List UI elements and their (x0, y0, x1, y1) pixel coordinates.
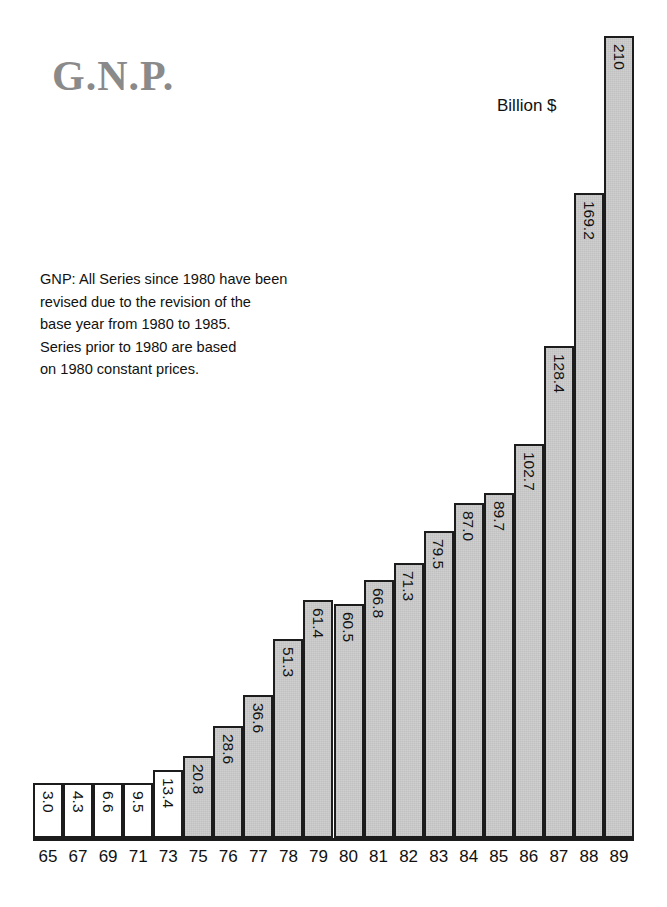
x-axis-tick-label: 77 (243, 845, 273, 869)
bar-value-container: 102.7 (516, 446, 542, 836)
bar-value-container: 13.4 (155, 772, 181, 836)
bar[interactable]: 9.5 (123, 783, 153, 838)
x-axis-tick-label: 89 (604, 845, 634, 869)
bar-value-label: 51.3 (281, 647, 297, 677)
bar-value-container: 51.3 (275, 641, 301, 836)
x-axis-tick-label: 84 (454, 845, 484, 869)
bar-value-container: 210 (606, 38, 632, 836)
x-axis-tick-label: 87 (544, 845, 574, 869)
bar-value-container: 20.8 (185, 758, 211, 836)
x-axis-tick-label: 81 (364, 845, 394, 869)
bar[interactable]: 79.5 (424, 531, 454, 838)
bar-column[interactable]: 51.3 (273, 639, 303, 838)
x-axis-tick-label: 67 (63, 845, 93, 869)
bar-value-container: 60.5 (336, 606, 362, 836)
bar-value-container: 28.6 (215, 728, 241, 836)
bar-column[interactable]: 61.4 (303, 600, 333, 838)
x-axis-tick-label: 73 (153, 845, 183, 869)
bar[interactable]: 4.3 (63, 783, 93, 838)
bar-value-label: 20.8 (191, 764, 207, 794)
bar-value-container: 71.3 (396, 565, 422, 836)
x-axis-labels: 6567697173757677787980818283848586878889 (33, 845, 634, 875)
x-axis-tick-label: 65 (33, 845, 63, 869)
bar-value-container: 128.4 (546, 348, 572, 836)
bar-value-label: 102.7 (521, 452, 537, 491)
bar-column[interactable]: 60.5 (334, 604, 364, 838)
bar-column[interactable]: 6.6 (93, 783, 123, 838)
bar[interactable]: 20.8 (183, 756, 213, 838)
bar-column[interactable]: 71.3 (394, 563, 424, 838)
bar-column[interactable]: 9.5 (123, 783, 153, 838)
bar-value-container: 6.6 (95, 785, 121, 836)
bar[interactable]: 102.7 (514, 444, 544, 838)
bar-value-container: 87.0 (456, 505, 482, 836)
x-axis-tick-label: 75 (183, 845, 213, 869)
bar[interactable]: 36.6 (243, 695, 273, 838)
bar-column[interactable]: 79.5 (424, 531, 454, 838)
bar-column[interactable]: 4.3 (63, 783, 93, 838)
bar-value-container: 61.4 (305, 602, 331, 836)
bar-column[interactable]: 3.0 (33, 783, 63, 838)
bar-column[interactable]: 169.2 (574, 193, 604, 838)
bar-column[interactable]: 36.6 (243, 695, 273, 838)
bar-value-label: 128.4 (551, 354, 567, 393)
bar-value-label: 6.6 (100, 791, 116, 813)
bar-column[interactable]: 20.8 (183, 756, 213, 838)
bar-value-container: 169.2 (576, 195, 602, 836)
bar[interactable]: 89.7 (484, 493, 514, 838)
bar-column[interactable]: 13.4 (153, 770, 183, 838)
bar-value-label: 9.5 (130, 791, 146, 813)
bar-value-label: 66.8 (371, 588, 387, 618)
bar-column[interactable]: 210 (604, 36, 634, 838)
bar-value-container: 66.8 (366, 582, 392, 836)
x-axis-tick-label: 76 (213, 845, 243, 869)
bar-value-container: 3.0 (35, 785, 61, 836)
bar[interactable]: 61.4 (303, 600, 333, 838)
bar[interactable]: 210 (604, 36, 634, 838)
bar-value-label: 36.6 (251, 703, 267, 733)
bar-value-label: 87.0 (461, 511, 477, 541)
bar-value-label: 28.6 (221, 734, 237, 764)
bar-column[interactable]: 28.6 (213, 726, 243, 838)
bar-value-label: 79.5 (431, 539, 447, 569)
bar[interactable]: 60.5 (334, 604, 364, 838)
bar[interactable]: 87.0 (454, 503, 484, 838)
bar-value-container: 4.3 (65, 785, 91, 836)
bar[interactable]: 169.2 (574, 193, 604, 838)
bar[interactable]: 128.4 (544, 346, 574, 838)
bar[interactable]: 3.0 (33, 783, 63, 838)
bar-value-label: 169.2 (581, 201, 597, 240)
bar-value-label: 71.3 (401, 571, 417, 601)
bar-value-label: 4.3 (70, 791, 86, 813)
bar-column[interactable]: 102.7 (514, 444, 544, 838)
x-axis-tick-label: 79 (303, 845, 333, 869)
bar[interactable]: 13.4 (153, 770, 183, 838)
x-axis-tick-label: 80 (334, 845, 364, 869)
bar-column[interactable]: 87.0 (454, 503, 484, 838)
bar[interactable]: 71.3 (394, 563, 424, 838)
bar-chart-plot-area: 3.04.36.69.513.420.828.636.651.361.460.5… (33, 30, 634, 840)
bar[interactable]: 66.8 (364, 580, 394, 838)
x-axis-tick-label: 83 (424, 845, 454, 869)
bar-value-container: 89.7 (486, 495, 512, 836)
x-axis-tick-label: 82 (394, 845, 424, 869)
bar-column[interactable]: 89.7 (484, 493, 514, 838)
bar-value-container: 9.5 (125, 785, 151, 836)
x-axis-tick-label: 88 (574, 845, 604, 869)
x-axis-tick-label: 71 (123, 845, 153, 869)
bar-value-label: 3.0 (40, 791, 56, 813)
bar[interactable]: 6.6 (93, 783, 123, 838)
bar-value-container: 79.5 (426, 533, 452, 836)
bar[interactable]: 28.6 (213, 726, 243, 838)
x-axis-tick-label: 85 (484, 845, 514, 869)
x-axis-baseline (33, 838, 634, 841)
bar[interactable]: 51.3 (273, 639, 303, 838)
x-axis-tick-label: 86 (514, 845, 544, 869)
x-axis-tick-label: 78 (273, 845, 303, 869)
bar-column[interactable]: 128.4 (544, 346, 574, 838)
bar-value-label: 61.4 (311, 608, 327, 638)
bar-column[interactable]: 66.8 (364, 580, 394, 838)
x-axis-tick-label: 69 (93, 845, 123, 869)
bar-value-label: 60.5 (341, 612, 357, 642)
bar-value-label: 13.4 (160, 778, 176, 808)
